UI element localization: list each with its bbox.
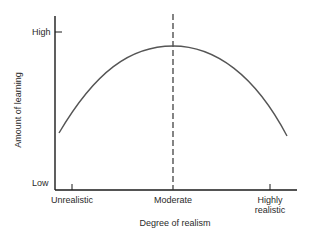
y-axis-label: Amount of learning bbox=[13, 60, 23, 160]
x-tick-label-highly: Highly bbox=[245, 195, 295, 205]
x-axis-label: Degree of realism bbox=[120, 218, 230, 228]
y-tick-label-high: High bbox=[32, 27, 51, 37]
y-tick-label-low: Low bbox=[32, 178, 49, 188]
x-tick-label-moderate: Moderate bbox=[143, 195, 203, 205]
x-tick-label-unrealistic: Unrealistic bbox=[42, 195, 102, 205]
x-tick-label-realistic: realistic bbox=[245, 205, 295, 215]
